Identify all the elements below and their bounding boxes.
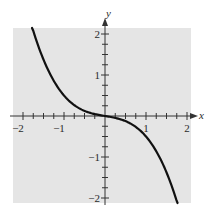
- y-tick-label: −1: [88, 151, 100, 163]
- x-axis-label: x: [198, 109, 204, 121]
- y-tick-label: 1: [95, 69, 101, 81]
- y-tick-label: −2: [88, 192, 100, 204]
- y-axis-arrow-icon: [102, 18, 108, 26]
- y-axis-label: y: [105, 7, 111, 19]
- cubic-function-plot: x y −2−11221−1−2: [0, 0, 216, 215]
- x-tick-label: −2: [12, 122, 24, 134]
- x-axis-arrow-icon: [190, 113, 198, 119]
- x-tick-label: 1: [143, 122, 149, 134]
- x-tick-label: −1: [53, 122, 65, 134]
- x-tick-label: 2: [184, 122, 190, 134]
- y-tick-label: 2: [95, 28, 101, 40]
